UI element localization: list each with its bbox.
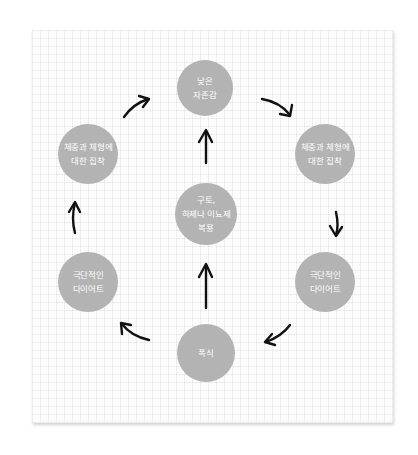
arrow-low-self-esteem-to-obsession-right: [262, 99, 292, 116]
node-label: 체중과 체형에: [64, 140, 113, 154]
node-label: 대한 집착: [71, 154, 104, 168]
node-obsession-right: 체중과 체형에 대한 집착: [295, 124, 355, 184]
node-label: 복용: [198, 221, 213, 235]
node-obsession-left: 체중과 체형에 대한 집착: [58, 124, 118, 184]
node-label: 대한 집착: [308, 154, 341, 168]
node-label: 자존감: [193, 88, 216, 102]
node-extreme-diet-left: 극단적인 다이어트: [58, 252, 118, 312]
node-label: 극단적인: [310, 268, 341, 282]
node-label: 체중과 체형에: [301, 140, 350, 154]
node-label: 구토,: [197, 193, 215, 207]
node-label: 극단적인: [73, 268, 104, 282]
node-label: 폭식: [198, 346, 213, 360]
arrow-extreme-diet-right-to-binge-eating: [265, 325, 290, 345]
node-extreme-diet-right: 극단적인 다이어트: [295, 252, 355, 312]
node-label: 다이어트: [310, 282, 341, 296]
node-label: 낮은: [197, 74, 212, 88]
arrow-binge-eating-to-purging: [199, 264, 212, 308]
node-label: 다이어트: [73, 282, 104, 296]
arrow-obsession-left-to-low-self-esteem: [124, 96, 149, 117]
arrow-obsession-right-to-extreme-diet-right: [330, 212, 342, 236]
arrow-binge-eating-to-extreme-diet-left: [121, 323, 149, 340]
node-label: 하제나 이뇨제: [182, 207, 231, 221]
node-low-self-esteem: 낮은 자존감: [177, 60, 233, 116]
arrow-extreme-diet-left-to-obsession-left: [69, 202, 80, 233]
node-purging: 구토, 하제나 이뇨제 복용: [175, 183, 237, 245]
arrow-purging-to-low-self-esteem: [199, 130, 212, 163]
node-binge-eating: 폭식: [177, 324, 235, 382]
